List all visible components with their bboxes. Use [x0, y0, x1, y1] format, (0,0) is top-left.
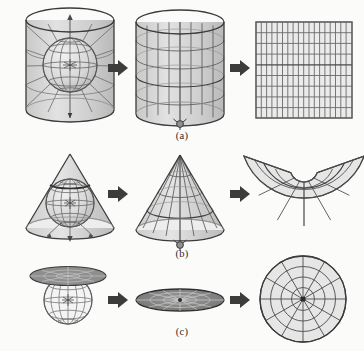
tangent-plane-disc	[30, 267, 106, 286]
disc-centre-point	[178, 298, 182, 302]
stage-globe-in-cylinder	[26, 8, 114, 122]
caption-b: (b)	[0, 248, 364, 259]
caption-a: (a)	[0, 130, 364, 141]
stage-tilted-disc	[136, 289, 224, 311]
globe-graticule	[43, 38, 97, 92]
row-a-cylindrical	[26, 8, 352, 130]
map-projection-figure	[0, 0, 364, 351]
stage-cylinder-graticule	[136, 10, 224, 130]
stage-unrolled-rectangle	[256, 22, 352, 118]
polar-centre-point	[300, 296, 305, 301]
caption-c: (c)	[0, 326, 364, 337]
